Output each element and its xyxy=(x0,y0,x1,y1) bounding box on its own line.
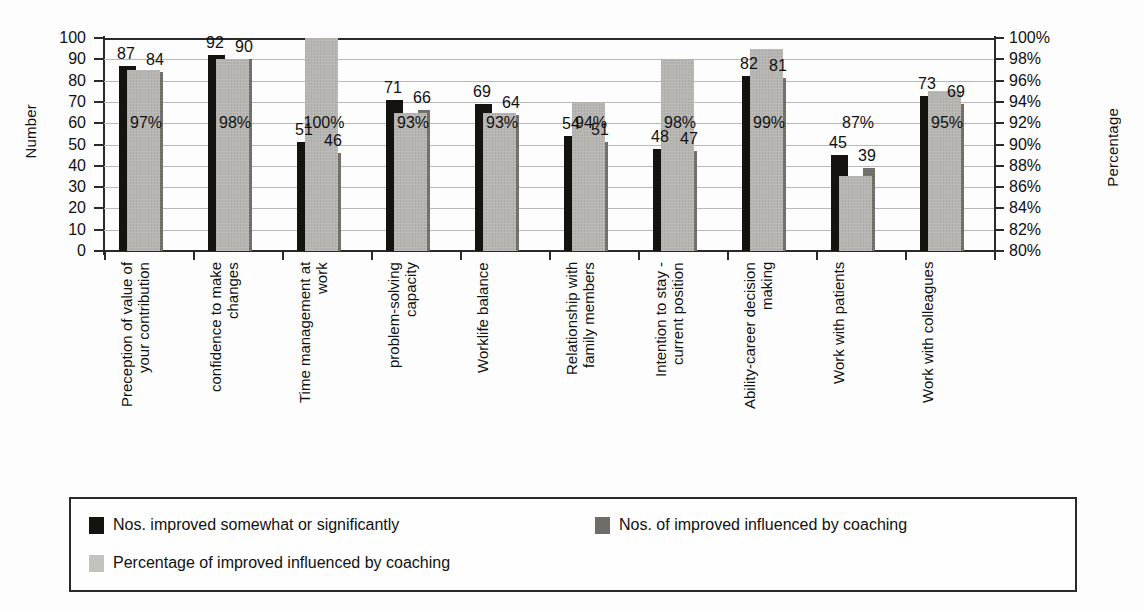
y-axis-left-tick xyxy=(94,122,104,124)
bar-group: 736995% xyxy=(905,38,994,251)
bar-influenced-percentage xyxy=(216,59,249,251)
y-axis-left-tick xyxy=(94,80,104,82)
bar-value-label: 46 xyxy=(324,133,342,149)
y-axis-left-tick-label: 80 xyxy=(68,73,86,89)
x-axis-category-label: problem-solving capacity xyxy=(385,262,420,484)
x-axis-category-label: Ability-career decision making xyxy=(741,262,776,484)
bar-influenced-percentage xyxy=(483,113,516,251)
x-axis-category-label: confidence to make changes xyxy=(207,262,242,484)
bar-value-label: 92 xyxy=(206,35,224,51)
bar-percentage-label: 98% xyxy=(664,115,696,131)
bar-group: 545194% xyxy=(549,38,638,251)
y-axis-right-tick-label: 96% xyxy=(1009,73,1041,89)
x-axis-category-label: Intention to stay - current position xyxy=(652,262,687,484)
bar-value-label: 69 xyxy=(473,84,491,100)
bar-value-label: 47 xyxy=(680,131,698,147)
legend-item: Nos. improved somewhat or significantly xyxy=(89,516,399,534)
y-axis-left-title: Number xyxy=(22,104,39,159)
bar-value-label: 82 xyxy=(740,56,758,72)
y-axis-left-tick xyxy=(94,250,104,252)
bar-percentage-label: 87% xyxy=(842,115,874,131)
bar-group: 696493% xyxy=(460,38,549,251)
y-axis-right-tick xyxy=(994,144,1004,146)
y-axis-left-tick-label: 60 xyxy=(68,115,86,131)
bar-influenced-percentage xyxy=(661,59,694,251)
y-axis-right-tick xyxy=(994,229,1004,231)
y-axis-left-tick-label: 50 xyxy=(68,137,86,153)
legend-item: Nos. of improved influenced by coaching xyxy=(595,516,907,534)
y-axis-right-tick-label: 92% xyxy=(1009,115,1041,131)
bar-value-label: 87 xyxy=(117,46,135,62)
legend-swatch-icon xyxy=(89,517,104,534)
y-axis-left-tick xyxy=(94,229,104,231)
bar-value-label: 84 xyxy=(146,52,164,68)
y-axis-right-tick-label: 80% xyxy=(1009,243,1041,259)
bar-percentage-label: 93% xyxy=(397,115,429,131)
x-axis-tick xyxy=(371,251,373,260)
x-axis-tick xyxy=(282,251,284,260)
plot-area: 878497%929098%5146100%716693%696493%5451… xyxy=(104,38,994,251)
y-axis-left-tick xyxy=(94,144,104,146)
y-axis-right-tick xyxy=(994,186,1004,188)
x-axis-tick xyxy=(994,251,996,260)
bar-group: 5146100% xyxy=(282,38,371,251)
y-axis-right-tick-label: 86% xyxy=(1009,179,1041,195)
x-axis-tick xyxy=(193,251,195,260)
chart-figure: Number Percentage 878497%929098%5146100%… xyxy=(0,0,1143,610)
bar-percentage-label: 94% xyxy=(575,115,607,131)
bar-group: 453987% xyxy=(816,38,905,251)
x-axis-tick xyxy=(816,251,818,260)
y-axis-right-tick xyxy=(994,101,1004,103)
bar-value-label: 39 xyxy=(858,148,876,164)
y-axis-right-tick-label: 94% xyxy=(1009,94,1041,110)
x-axis-tick xyxy=(638,251,640,260)
y-axis-left-tick-label: 30 xyxy=(68,179,86,195)
x-axis-category-label: Worklife balance xyxy=(474,262,491,484)
y-axis-right-tick xyxy=(994,122,1004,124)
bar-percentage-label: 95% xyxy=(931,115,963,131)
bar-value-label: 90 xyxy=(235,39,253,55)
bar-value-label: 45 xyxy=(829,135,847,151)
y-axis-right-tick xyxy=(994,37,1004,39)
y-axis-right-spine xyxy=(994,36,996,255)
bar-group: 929098% xyxy=(193,38,282,251)
y-axis-right-tick-label: 90% xyxy=(1009,137,1041,153)
x-axis-category-label: Preception of value of your contribution xyxy=(118,262,153,484)
legend-item-label: Nos. of improved influenced by coaching xyxy=(619,516,907,534)
y-axis-right-tick xyxy=(994,80,1004,82)
y-axis-left-tick xyxy=(94,186,104,188)
x-axis-category-label: Relationship with family members xyxy=(563,262,598,484)
legend-swatch-icon xyxy=(595,517,610,534)
y-axis-right-tick-label: 84% xyxy=(1009,200,1041,216)
bar-group: 878497% xyxy=(104,38,193,251)
y-axis-right-tick-label: 98% xyxy=(1009,51,1041,67)
y-axis-left-tick xyxy=(94,37,104,39)
bar-influenced-percentage xyxy=(127,70,160,251)
bar-group: 484798% xyxy=(638,38,727,251)
y-axis-right-tick xyxy=(994,165,1004,167)
bar-group: 716693% xyxy=(371,38,460,251)
y-axis-left-tick-label: 40 xyxy=(68,158,86,174)
bar-influenced-percentage xyxy=(394,113,427,251)
x-axis-category-label: Work with patients xyxy=(830,262,847,484)
y-axis-right-tick-label: 100% xyxy=(1009,30,1050,46)
bar-value-label: 71 xyxy=(384,80,402,96)
x-axis-category-label: Work with colleagues xyxy=(919,262,936,484)
x-axis-tick xyxy=(460,251,462,260)
y-axis-right-tick-label: 88% xyxy=(1009,158,1041,174)
y-axis-left-tick xyxy=(94,207,104,209)
x-axis-tick xyxy=(104,251,106,260)
legend-item: Percentage of improved influenced by coa… xyxy=(89,554,450,572)
chart-legend: Nos. improved somewhat or significantlyN… xyxy=(69,497,1077,592)
x-axis-category-label: Time management at work xyxy=(296,262,331,484)
bar-value-label: 73 xyxy=(918,76,936,92)
bar-value-label: 69 xyxy=(947,84,965,100)
bar-percentage-label: 97% xyxy=(130,115,162,131)
legend-item-label: Percentage of improved influenced by coa… xyxy=(113,554,450,572)
y-axis-left-tick-label: 70 xyxy=(68,94,86,110)
legend-swatch-icon xyxy=(89,555,104,572)
bar-percentage-label: 100% xyxy=(304,115,345,131)
x-axis-tick xyxy=(727,251,729,260)
bar-group: 828199% xyxy=(727,38,816,251)
y-axis-left-tick xyxy=(94,101,104,103)
